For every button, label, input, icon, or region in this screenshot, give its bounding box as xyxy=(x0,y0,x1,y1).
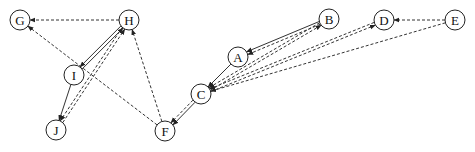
edge-c-to-b xyxy=(210,25,321,90)
edges-layer xyxy=(28,20,446,125)
edge-c-to-f xyxy=(173,102,195,125)
node-label: B xyxy=(325,12,334,27)
node-label: A xyxy=(233,50,243,65)
node-a: A xyxy=(228,47,248,67)
nodes-layer: ABCDEFGHIJ xyxy=(10,9,465,141)
node-h: H xyxy=(119,10,139,30)
edge-c-to-f xyxy=(171,100,193,123)
edge-f-to-h xyxy=(132,30,162,122)
node-e: E xyxy=(445,10,465,30)
node-label: C xyxy=(197,87,206,102)
node-i: I xyxy=(64,65,84,85)
node-label: F xyxy=(161,124,168,139)
edge-a-to-c xyxy=(208,64,231,87)
edge-f-to-g xyxy=(28,26,157,125)
node-b: B xyxy=(319,9,339,29)
edge-h-to-i xyxy=(80,26,121,67)
node-label: H xyxy=(124,13,133,28)
node-label: G xyxy=(15,13,24,28)
edge-i-to-j xyxy=(59,85,71,121)
node-f: F xyxy=(155,121,175,141)
node-g: G xyxy=(10,10,30,30)
node-label: D xyxy=(379,13,388,28)
node-d: D xyxy=(374,10,394,30)
edge-b-to-a xyxy=(247,22,320,52)
node-c: C xyxy=(191,84,211,104)
edge-b-to-c xyxy=(209,23,320,88)
directed-graph-canvas: ABCDEFGHIJ xyxy=(0,0,475,152)
node-label: I xyxy=(72,68,76,83)
node-label: J xyxy=(53,123,58,138)
node-j: J xyxy=(46,120,66,140)
node-label: E xyxy=(451,13,459,28)
